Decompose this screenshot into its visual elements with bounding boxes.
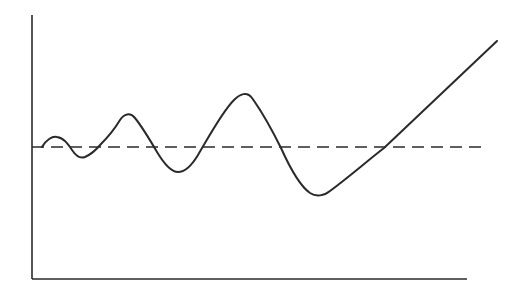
response-curve — [42, 41, 497, 195]
line-chart — [0, 0, 516, 296]
